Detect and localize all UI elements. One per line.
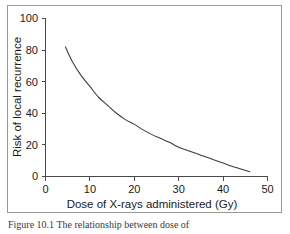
- x-tick-label-40: 40: [217, 183, 229, 195]
- x-tick-label-10: 10: [84, 183, 96, 195]
- recurrence-risk-curve: [65, 47, 249, 172]
- x-axis-ticks: [46, 177, 268, 182]
- y-axis-ticks: [42, 19, 46, 177]
- y-tick-label-80: 80: [26, 44, 38, 56]
- y-tick-label-0: 0: [32, 170, 38, 182]
- chart-plot: 0 20 40 60 80 100 0 10 20 30 40 50 Dose …: [0, 0, 290, 234]
- y-tick-label-60: 60: [26, 76, 38, 88]
- x-axis-title: Dose of X-rays administered (Gy): [67, 198, 238, 210]
- y-tick-label-40: 40: [26, 107, 38, 119]
- figure-caption: Figure 10.1 The relationship between dos…: [8, 219, 282, 234]
- y-axis-title: Risk of local recurrence: [11, 37, 23, 157]
- x-tick-label-30: 30: [173, 183, 185, 195]
- y-tick-label-100: 100: [20, 12, 38, 24]
- x-tick-label-50: 50: [261, 183, 273, 195]
- x-tick-label-0: 0: [42, 183, 48, 195]
- y-tick-label-20: 20: [26, 139, 38, 151]
- figure-root: 0 20 40 60 80 100 0 10 20 30 40 50 Dose …: [0, 0, 290, 234]
- x-tick-label-20: 20: [128, 183, 140, 195]
